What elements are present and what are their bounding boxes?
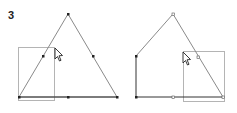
- vertex-handles: [18, 13, 119, 99]
- panel-before: [18, 13, 119, 101]
- vertex-handle[interactable]: [135, 55, 138, 58]
- cursor-arrow-icon: [55, 48, 63, 61]
- cursor-arrow-icon: [183, 52, 191, 65]
- vertex-handle[interactable]: [172, 13, 175, 16]
- midpoint-handle[interactable]: [42, 55, 45, 58]
- midpoint-handle[interactable]: [92, 55, 95, 58]
- triangle-shape[interactable]: [19, 14, 117, 97]
- polygon-upper-edges[interactable]: [136, 14, 223, 97]
- selection-rectangle[interactable]: [19, 48, 55, 101]
- polygon-lower-edges[interactable]: [136, 56, 223, 97]
- panel-after: [135, 13, 225, 102]
- diagram-canvas: [0, 0, 237, 113]
- vertex-handle[interactable]: [67, 13, 70, 16]
- midpoint-handle[interactable]: [67, 96, 70, 99]
- vertex-handle[interactable]: [18, 96, 21, 99]
- vertex-handle[interactable]: [116, 96, 119, 99]
- vertex-handle[interactable]: [222, 96, 225, 99]
- midpoint-handle[interactable]: [197, 56, 200, 59]
- vertex-handle[interactable]: [135, 96, 138, 99]
- midpoint-handle[interactable]: [172, 96, 175, 99]
